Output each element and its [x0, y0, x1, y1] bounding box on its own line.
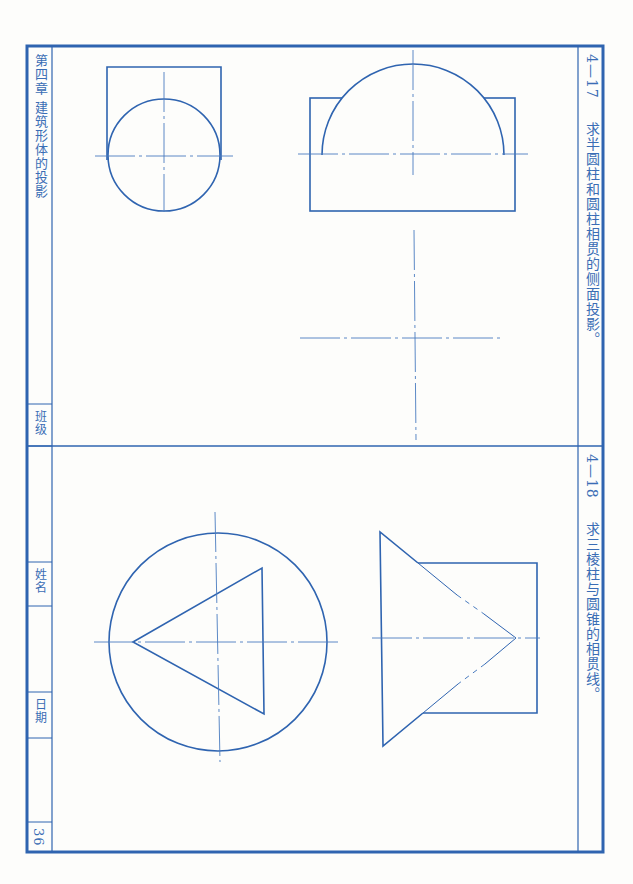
exercise-4-18-header: 4—18 求三棱柱与圆锥的相贯线。: [582, 454, 602, 702]
drawing-canvas: [0, 0, 633, 884]
exercise-4-17-header: 4—17 求半圆柱和圆柱相贯的侧面投影。: [582, 54, 602, 347]
outer-frame: [27, 46, 603, 852]
exercise-4-18-drawing: [109, 532, 537, 751]
cone-outline: [380, 532, 423, 746]
cone-edge-upper: [418, 563, 457, 595]
hidden-lines-4-18: [457, 595, 485, 684]
name-label: 姓名: [31, 568, 48, 594]
cone-edge-upper-2: [484, 614, 516, 638]
cone-edge-lower-2: [423, 684, 458, 713]
date-label: 日期: [31, 698, 48, 724]
chapter-title: 第四章 建筑形体的投影: [31, 54, 50, 199]
exercise-prompt: 求半圆柱和圆柱相贯的侧面投影。: [584, 122, 600, 347]
page-number: 36: [31, 828, 46, 847]
name-input-field[interactable]: [28, 607, 51, 691]
date-input-field[interactable]: [28, 739, 51, 821]
worksheet-page: 4—17 求半圆柱和圆柱相贯的侧面投影。 4—18 求三棱柱与圆锥的相贯线。 第…: [0, 0, 633, 884]
class-input-field[interactable]: [28, 447, 51, 561]
exercise-number: 4—18: [584, 454, 600, 499]
exercise-4-17-drawing: [107, 64, 515, 211]
class-label: 班级: [31, 410, 48, 436]
exercise-number: 4—17: [584, 54, 600, 99]
cone-edge-lower: [485, 638, 516, 664]
exercise-prompt: 求三棱柱与圆锥的相贯线。: [584, 522, 600, 702]
prism-triangle: [133, 568, 264, 714]
